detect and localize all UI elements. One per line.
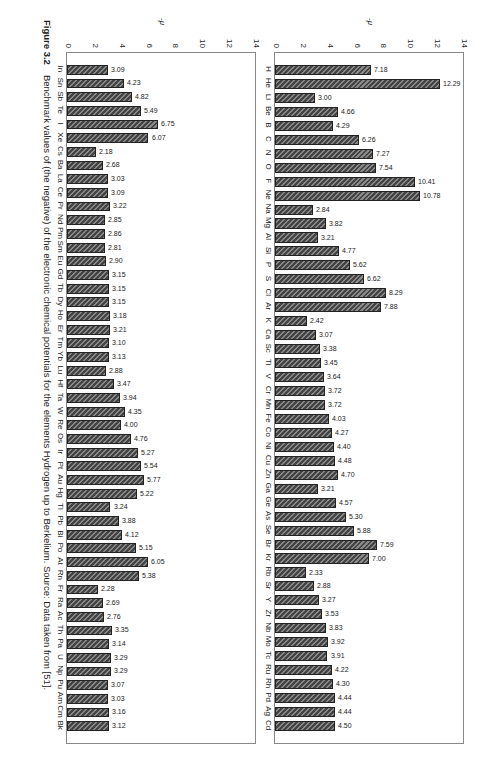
- bar-W: [67, 407, 125, 417]
- bar-value-label: 3.72: [328, 387, 342, 394]
- bar-Er: [67, 325, 110, 335]
- category-label: Ce: [56, 185, 65, 199]
- bar-value-label: 3.88: [122, 517, 136, 524]
- bar-Sc: [275, 344, 320, 354]
- category-label: Tb: [56, 281, 65, 295]
- category-label: Tl: [56, 499, 65, 513]
- category-label: O: [264, 160, 273, 174]
- bar-value-label: 4.77: [342, 247, 356, 254]
- y-tick-label: 6: [145, 34, 154, 48]
- category-label: Ne: [264, 188, 273, 202]
- category-label: Ni: [264, 439, 273, 453]
- bar-Ti: [275, 358, 321, 368]
- bar-value-label: 5.22: [140, 490, 154, 497]
- y-tick-label: 2: [299, 34, 308, 48]
- bar-Sr: [275, 581, 314, 591]
- bar-value-label: 2.88: [109, 367, 123, 374]
- y-tick-label: 4: [326, 34, 335, 48]
- bar-Hg: [67, 489, 137, 499]
- chart-panel-h-to-cd: [274, 52, 464, 744]
- category-label: Li: [264, 90, 273, 104]
- figure-caption-text: Benchmark values of (the negative) of th…: [42, 75, 53, 690]
- category-label: Ti: [264, 355, 273, 369]
- bar-value-label: 7.18: [374, 66, 388, 73]
- bar-value-label: 4.35: [128, 408, 142, 415]
- category-label: Fe: [264, 411, 273, 425]
- bar-value-label: 4.66: [341, 108, 355, 115]
- bar-value-label: 2.69: [106, 599, 120, 606]
- bar-value-label: 12.29: [443, 80, 461, 87]
- category-label: Ag: [264, 704, 273, 718]
- bar-value-label: 5.30: [349, 513, 363, 520]
- bar-Zr: [275, 609, 322, 619]
- bar-value-label: 4.22: [335, 666, 349, 673]
- bar-Cr: [275, 386, 325, 396]
- y-tick-label: 10: [198, 34, 207, 48]
- bar-At: [67, 557, 148, 567]
- category-label: Tc: [264, 648, 273, 662]
- bar-value-label: 3.47: [117, 380, 131, 387]
- bar-B: [275, 121, 333, 131]
- category-label: Dy: [56, 294, 65, 308]
- bar-Al: [275, 232, 318, 242]
- bar-value-label: 3.16: [112, 708, 126, 715]
- category-label: Sn: [56, 76, 65, 90]
- bar-value-label: 3.03: [111, 175, 125, 182]
- category-label: V: [264, 369, 273, 383]
- bar-value-label: 3.21: [321, 234, 335, 241]
- bar-value-label: 3.09: [112, 189, 126, 196]
- bar-value-label: 4.29: [336, 122, 350, 129]
- bar-Tm: [67, 338, 109, 348]
- bar-value-label: 3.53: [325, 610, 339, 617]
- y-axis-label: -μ: [158, 18, 167, 25]
- bar-Ce: [67, 188, 108, 198]
- category-label: B: [264, 118, 273, 132]
- bar-Nb: [275, 623, 326, 633]
- bar-Y: [275, 595, 319, 605]
- y-tick-label: 0: [272, 34, 281, 48]
- bar-Zn: [275, 470, 338, 480]
- bar-value-label: 3.15: [112, 271, 126, 278]
- category-label: Kr: [264, 551, 273, 565]
- bar-Cd: [275, 721, 335, 731]
- bar-Hf: [67, 379, 114, 389]
- bar-value-label: 5.54: [144, 462, 158, 469]
- bar-value-label: 4.50: [338, 722, 352, 729]
- bar-Eu: [67, 256, 106, 266]
- bar-Be: [275, 107, 338, 117]
- bar-Ac: [67, 612, 104, 622]
- category-label: Co: [264, 425, 273, 439]
- category-label: Rn: [56, 568, 65, 582]
- category-label: I: [56, 117, 65, 131]
- bar-value-label: 4.12: [125, 531, 139, 538]
- bar-Ar: [275, 302, 381, 312]
- category-label: Si: [264, 243, 273, 257]
- bar-value-label: 4.40: [337, 443, 351, 450]
- bar-value-label: 7.88: [384, 303, 398, 310]
- bar-Co: [275, 428, 332, 438]
- bar-Na: [275, 205, 313, 215]
- category-label: Th: [56, 622, 65, 636]
- bar-value-label: 2.90: [109, 257, 123, 264]
- category-label: Pa: [56, 636, 65, 650]
- bar-value-label: 3.22: [113, 202, 127, 209]
- category-label: N: [264, 146, 273, 160]
- bar-He: [275, 79, 440, 89]
- bar-V: [275, 372, 324, 382]
- category-label: Ge: [264, 495, 273, 509]
- bar-C: [275, 135, 359, 145]
- bar-Bk: [67, 721, 109, 731]
- figure-caption: Figure 3.2Benchmark values of (the negat…: [41, 20, 53, 740]
- category-label: Er: [56, 322, 65, 336]
- bar-Au: [67, 475, 144, 485]
- bar-Sb: [67, 92, 132, 102]
- category-label: At: [56, 554, 65, 568]
- category-label: As: [264, 509, 273, 523]
- bar-value-label: 3.92: [331, 638, 345, 645]
- y-tick-label: 2: [91, 34, 100, 48]
- bar-Cs: [67, 147, 96, 157]
- category-label: In: [56, 62, 65, 76]
- bar-value-label: 4.44: [338, 708, 352, 715]
- bar-Xe: [67, 133, 149, 143]
- y-tick-label: 10: [406, 34, 415, 48]
